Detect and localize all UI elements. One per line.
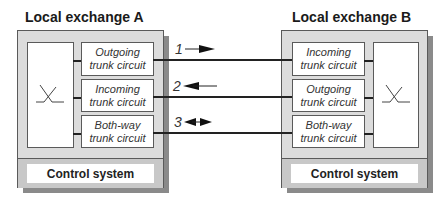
exchange-a-trunk-incoming: Incoming trunk circuit — [81, 79, 154, 112]
switch-icon — [28, 43, 75, 149]
link-label-3: 3 — [174, 114, 182, 130]
trunk-label: trunk circuit — [300, 96, 356, 109]
exchange-b-trunk-incoming: Incoming trunk circuit — [292, 42, 365, 76]
trunk-label: Both-way — [95, 119, 141, 132]
trunk-label: Outgoing — [306, 83, 351, 96]
exchange-a: Outgoing trunk circuit Incoming trunk ci… — [17, 30, 164, 188]
exchange-a-control-system: Control system — [27, 164, 154, 183]
exchange-a-trunk-outgoing: Outgoing trunk circuit — [81, 42, 154, 76]
trunk-line-3 — [153, 132, 292, 134]
exchange-b-trunk-bothway: Both-way trunk circuit — [292, 115, 365, 148]
exchange-b-trunk-outgoing: Outgoing trunk circuit — [292, 79, 365, 112]
exchange-b-control-system: Control system — [291, 164, 418, 183]
trunk-label: Incoming — [306, 46, 351, 59]
exchange-b: Incoming trunk circuit Outgoing trunk ci… — [281, 30, 428, 188]
exchange-a-switch-panel — [27, 42, 74, 148]
arrow-right-icon — [185, 44, 221, 54]
arrow-left-icon — [183, 81, 219, 91]
exchange-a-title: Local exchange A — [25, 9, 144, 25]
switch-icon — [374, 43, 420, 149]
exchange-a-trunk-bothway: Both-way trunk circuit — [81, 115, 154, 148]
trunk-label: trunk circuit — [89, 132, 145, 145]
trunk-label: Both-way — [306, 119, 352, 132]
trunk-label: trunk circuit — [300, 132, 356, 145]
arrow-bidirectional-icon — [184, 117, 220, 127]
exchange-b-title: Local exchange B — [292, 9, 411, 25]
trunk-line-1 — [153, 59, 292, 61]
trunk-label: trunk circuit — [300, 59, 356, 72]
link-label-2: 2 — [173, 78, 181, 94]
trunk-label: trunk circuit — [89, 59, 145, 72]
exchange-b-switch-panel — [373, 42, 419, 148]
link-label-1: 1 — [175, 41, 183, 57]
trunk-label: trunk circuit — [89, 96, 145, 109]
trunk-label: Outgoing — [95, 46, 140, 59]
trunk-line-2 — [153, 96, 292, 98]
trunk-label: Incoming — [95, 83, 140, 96]
